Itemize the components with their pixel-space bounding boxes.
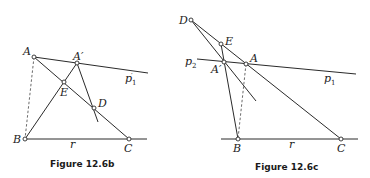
point-b <box>236 137 240 141</box>
label-c: C <box>337 142 346 155</box>
point-c <box>127 137 131 141</box>
label-r: r <box>70 138 76 151</box>
line-e-b <box>221 44 238 139</box>
point-b <box>23 137 27 141</box>
line-a-prime-d <box>77 63 98 122</box>
label-p1: p 1 <box>324 72 335 87</box>
label-a: A <box>249 52 258 65</box>
svg-text:2: 2 <box>192 62 196 70</box>
point-c <box>339 137 343 141</box>
svg-text:p: p <box>185 55 192 68</box>
label-b: B <box>232 142 241 155</box>
label-p1-prime: p ′ 1 <box>125 72 136 87</box>
point-d <box>189 18 193 22</box>
line-a-c <box>34 57 129 139</box>
label-p2: p 2 <box>185 55 196 70</box>
svg-text:1: 1 <box>331 79 335 87</box>
point-a-prime <box>222 60 226 64</box>
label-e: E <box>59 86 68 99</box>
caption-figure-12-6c: Figure 12.6c <box>255 162 318 172</box>
figure-12-6c: D E A′ A B C r p 2 p 1 Figure 12.6c <box>178 14 358 172</box>
point-e <box>62 80 66 84</box>
label-r: r <box>289 138 295 151</box>
point-a <box>32 55 36 59</box>
point-d <box>92 106 96 110</box>
label-d: D <box>178 14 188 27</box>
label-a-prime: A′ <box>210 63 222 76</box>
label-a: A <box>22 45 31 58</box>
figure-12-6b: A A′ E D B C r p ′ 1 Figure 12.6b <box>12 45 148 169</box>
point-e <box>219 42 223 46</box>
caption-figure-12-6b: Figure 12.6b <box>50 159 115 169</box>
label-c: C <box>124 142 133 155</box>
line-b-a-prime <box>25 63 77 139</box>
svg-text:p: p <box>324 72 331 85</box>
dashed-line-a-b <box>238 64 246 139</box>
line-d-c <box>191 20 341 139</box>
label-e: E <box>224 35 233 48</box>
line-p1-prime <box>34 57 148 73</box>
point-a <box>244 62 248 66</box>
label-a-prime: A′ <box>72 50 84 63</box>
label-d: D <box>97 97 107 110</box>
svg-text:1: 1 <box>132 79 136 87</box>
dashed-line-a-b <box>25 57 34 139</box>
geometry-figures: A A′ E D B C r p ′ 1 Figure 12.6b <box>0 0 370 178</box>
label-b: B <box>12 133 21 146</box>
